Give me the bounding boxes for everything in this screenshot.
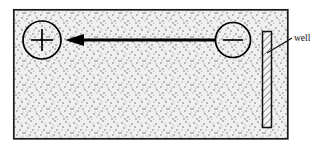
figure-container: well	[0, 0, 316, 150]
electrophoresis-diagram-svg: well	[0, 0, 316, 150]
sample-well	[263, 32, 272, 128]
well-label: well	[294, 33, 311, 43]
